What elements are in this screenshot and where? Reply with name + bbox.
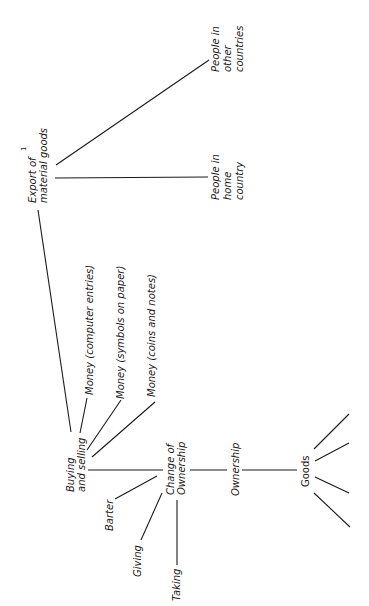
node-change-ownership: Change of Ownership	[165, 442, 187, 495]
node-barter: Barter	[104, 499, 115, 531]
edge-goods-branch-1	[314, 414, 349, 449]
edge-export-buying-selling	[38, 210, 71, 432]
concept-tree-diagram: 1 Export of material goods People in hom…	[0, 0, 369, 606]
edge-export-people-home	[55, 177, 208, 178]
node-export: 1 Export of material goods	[20, 128, 49, 203]
node-people-home-line3: country	[234, 161, 245, 200]
node-people-other-line1: People in	[210, 26, 221, 72]
node-people-other-line3: countries	[234, 26, 245, 72]
node-ownership: Ownership	[230, 443, 241, 496]
node-goods: Goods	[300, 455, 311, 487]
node-people-other: People in other countries	[210, 26, 245, 72]
node-people-home-line1: People in	[210, 154, 221, 200]
edge-barter-change	[115, 476, 157, 499]
node-people-home-line2: home	[222, 172, 233, 200]
node-giving: Giving	[132, 545, 143, 577]
edge-money-computer-buying	[80, 398, 87, 433]
node-money-symbols: Money (symbols on paper)	[115, 266, 126, 399]
node-change-line1: Change of	[165, 442, 176, 495]
edge-goods-branch-4	[314, 493, 350, 527]
node-people-home: People in home country	[210, 154, 245, 200]
node-people-other-line2: other	[222, 44, 233, 72]
edge-goods-branch-3	[315, 477, 349, 493]
edge-giving-change	[141, 493, 162, 540]
node-buying-line2: and selling	[76, 438, 87, 492]
node-export-line1: Export of	[27, 156, 38, 203]
node-taking: Taking	[171, 569, 182, 601]
node-buying-line1: Buying	[65, 457, 76, 492]
node-buying-selling: Buying and selling	[65, 438, 87, 492]
footnote-marker: 1	[20, 147, 28, 151]
node-money-coins: Money (coins and notes)	[146, 274, 157, 397]
node-change-line2: Ownership	[176, 442, 187, 495]
edge-goods-branch-2	[315, 443, 349, 461]
edge-money-symbols-buying	[87, 400, 121, 450]
node-money-computer: Money (computer entries)	[84, 265, 95, 395]
node-export-line2: material goods	[38, 128, 49, 203]
edge-export-people-other	[56, 60, 209, 165]
